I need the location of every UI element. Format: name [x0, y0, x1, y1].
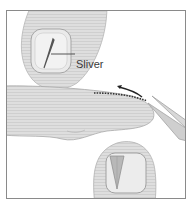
tweezers-icon — [148, 96, 186, 141]
illustration-svg — [7, 11, 186, 199]
finger-middle-icon — [7, 86, 154, 140]
fingertip-bottom-icon — [94, 142, 156, 199]
fingertip-top-icon — [21, 11, 107, 89]
illustration-frame: Sliver — [6, 10, 186, 199]
sliver-label: Sliver — [76, 58, 104, 70]
